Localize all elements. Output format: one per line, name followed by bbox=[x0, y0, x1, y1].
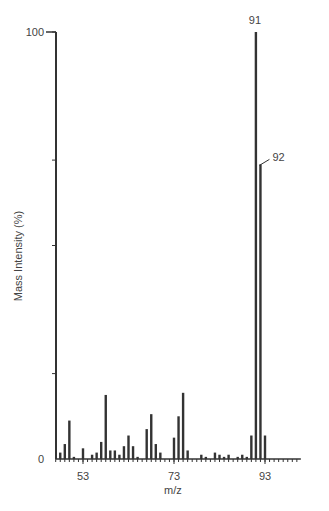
spectrum-bar bbox=[127, 436, 129, 459]
spectrum-bar bbox=[259, 164, 261, 459]
spectrum-bar bbox=[182, 393, 184, 459]
spectrum-bar bbox=[82, 448, 84, 459]
spectrum-bar bbox=[255, 32, 257, 459]
spectrum-bar bbox=[95, 453, 97, 459]
spectrum-bar bbox=[59, 453, 61, 459]
y-tick-label: 0 bbox=[38, 453, 44, 465]
spectrum-bar bbox=[91, 455, 93, 459]
spectrum-bar bbox=[109, 450, 111, 459]
spectrum-bar bbox=[118, 455, 120, 459]
spectrum-bar bbox=[73, 457, 75, 459]
spectrum-bar bbox=[150, 414, 152, 459]
spectrum-bar bbox=[155, 444, 157, 459]
spectrum-bar bbox=[64, 444, 66, 459]
spectrum-bar bbox=[218, 455, 220, 459]
peak-label: 92 bbox=[272, 151, 284, 163]
annotation-leader bbox=[259, 159, 269, 165]
spectrum-bar bbox=[246, 457, 248, 459]
spectrum-bar bbox=[132, 446, 134, 459]
x-tick-label: 93 bbox=[259, 470, 271, 482]
spectrum-bar bbox=[250, 436, 252, 459]
peak-label: 91 bbox=[249, 14, 261, 26]
y-axis-label: Mass Intensity (%) bbox=[12, 211, 24, 301]
spectrum-bar bbox=[200, 455, 202, 459]
spectrum-bar bbox=[146, 429, 148, 459]
spectrum-bar bbox=[186, 450, 188, 459]
chart-svg: 01005373939192 bbox=[0, 0, 329, 511]
spectrum-bar bbox=[159, 453, 161, 459]
x-axis-label: m/z bbox=[164, 484, 182, 496]
spectrum-bar bbox=[136, 457, 138, 459]
y-tick-label: 100 bbox=[26, 26, 44, 38]
spectrum-bar bbox=[223, 457, 225, 459]
spectrum-bar bbox=[241, 455, 243, 459]
spectrum-bar bbox=[105, 395, 107, 459]
spectrum-bar bbox=[114, 450, 116, 459]
spectrum-bar bbox=[68, 421, 70, 459]
spectrum-bar bbox=[237, 457, 239, 459]
spectrum-bar bbox=[123, 446, 125, 459]
spectrum-bar bbox=[177, 416, 179, 459]
spectrum-bar bbox=[227, 455, 229, 459]
x-tick-label: 53 bbox=[77, 470, 89, 482]
spectrum-bar bbox=[205, 457, 207, 459]
spectrum-bar bbox=[264, 436, 266, 459]
x-tick-label: 73 bbox=[168, 470, 180, 482]
spectrum-bar bbox=[173, 438, 175, 459]
spectrum-bar bbox=[214, 453, 216, 459]
spectrum-bar bbox=[100, 442, 102, 459]
